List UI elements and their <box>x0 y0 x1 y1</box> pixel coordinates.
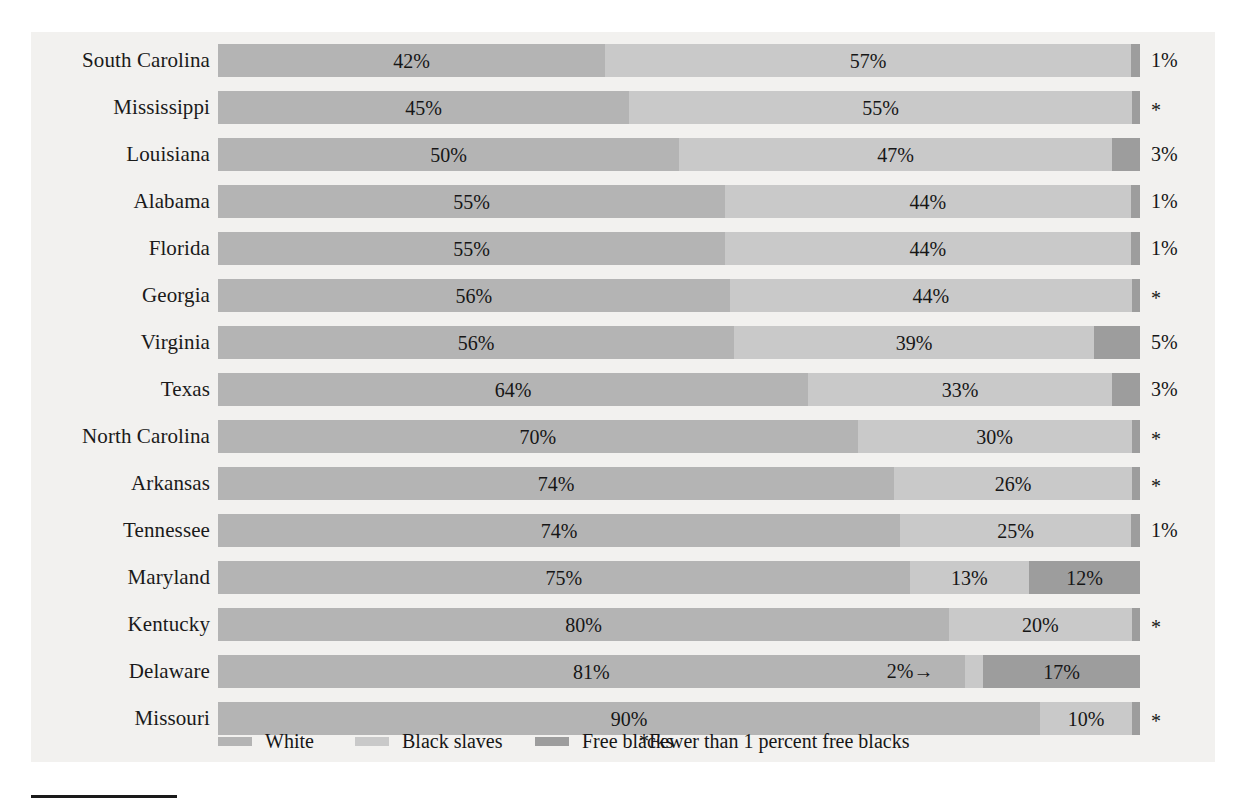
segment-black-slaves-value: 44% <box>910 192 947 212</box>
segment-black-slaves: 20% <box>949 608 1132 641</box>
legend-item-black-slaves: Black slaves <box>355 724 503 758</box>
segment-white-value: 74% <box>538 474 575 494</box>
segment-black-slaves-value: 44% <box>912 286 949 306</box>
segment-free-blacks: 12% <box>1029 561 1140 594</box>
segment-free-blacks-value: 12% <box>1066 568 1103 588</box>
segment-white-value: 70% <box>519 427 556 447</box>
free-blacks-asterisk: * <box>1151 608 1231 641</box>
segment-free-blacks: * <box>1132 279 1140 312</box>
segment-white: 45% <box>218 91 629 124</box>
segment-white-value: 55% <box>453 239 490 259</box>
bar-row: Maryland75%13%12% <box>31 561 1215 594</box>
segment-black-slaves-value: 39% <box>896 333 933 353</box>
segment-black-slaves-value: 13% <box>951 568 988 588</box>
free-blacks-outside-value: 3% <box>1151 373 1231 406</box>
segment-black-slaves-value: 55% <box>862 98 899 118</box>
legend-label: White <box>265 730 314 753</box>
free-blacks-asterisk: * <box>1151 420 1231 453</box>
segment-white-value: 75% <box>545 568 582 588</box>
segment-white: 80% <box>218 608 949 641</box>
stacked-bar: 55%44%1% <box>218 232 1140 265</box>
segment-black-slaves: 44% <box>730 279 1132 312</box>
stacked-bar: 45%55%* <box>218 91 1140 124</box>
row-label-state: Florida <box>31 232 210 265</box>
free-blacks-outside-value: 1% <box>1151 232 1231 265</box>
segment-white-value: 45% <box>405 98 442 118</box>
segment-white-value: 64% <box>495 380 532 400</box>
free-blacks-outside-value: 1% <box>1151 185 1231 218</box>
bar-row: Texas64%33%3%3% <box>31 373 1215 406</box>
bar-row: South Carolina42%57%1%1% <box>31 44 1215 77</box>
free-blacks-asterisk: * <box>1151 279 1231 312</box>
segment-free-blacks: * <box>1132 467 1140 500</box>
segment-white-value: 56% <box>456 286 493 306</box>
segment-white: 50% <box>218 138 679 171</box>
legend-label: Black slaves <box>402 730 503 753</box>
segment-free-blacks: 1% <box>1131 44 1140 77</box>
segment-white-value: 42% <box>393 51 430 71</box>
bar-row: Arkansas74%26%** <box>31 467 1215 500</box>
segment-free-blacks: * <box>1132 608 1140 641</box>
segment-white: 74% <box>218 467 894 500</box>
row-label-state: Texas <box>31 373 210 406</box>
segment-black-slaves-value: 57% <box>850 51 887 71</box>
bar-row: Tennessee74%25%1%1% <box>31 514 1215 547</box>
row-label-state: South Carolina <box>31 44 210 77</box>
segment-white: 81% <box>218 655 965 688</box>
segment-free-blacks: 5% <box>1094 326 1140 359</box>
legend-item-white: White <box>218 724 314 758</box>
segment-white: 55% <box>218 232 725 265</box>
segment-free-blacks: 1% <box>1131 185 1140 218</box>
delaware-slave-callout: 2%→ <box>887 655 934 688</box>
legend-swatch-icon <box>535 737 569 746</box>
segment-white-value: 90% <box>611 709 648 729</box>
segment-black-slaves: 26% <box>894 467 1132 500</box>
row-label-state: Maryland <box>31 561 210 594</box>
row-label-state: Missouri <box>31 702 210 735</box>
row-label-state: Virginia <box>31 326 210 359</box>
segment-white: 74% <box>218 514 900 547</box>
segment-white-value: 56% <box>458 333 495 353</box>
row-label-state: North Carolina <box>31 420 210 453</box>
bar-row: North Carolina70%30%** <box>31 420 1215 453</box>
segment-black-slaves: 2%→ <box>965 655 983 688</box>
segment-white: 64% <box>218 373 808 406</box>
segment-black-slaves-value: 10% <box>1068 709 1105 729</box>
row-label-state: Tennessee <box>31 514 210 547</box>
segment-black-slaves: 30% <box>858 420 1132 453</box>
segment-free-blacks: 1% <box>1131 232 1140 265</box>
stacked-bar: 74%26%* <box>218 467 1140 500</box>
segment-black-slaves: 13% <box>910 561 1030 594</box>
row-label-state: Kentucky <box>31 608 210 641</box>
row-label-state: Arkansas <box>31 467 210 500</box>
segment-black-slaves: 55% <box>629 91 1132 124</box>
segment-black-slaves-value: 44% <box>910 239 947 259</box>
stacked-bar: 80%20%* <box>218 608 1140 641</box>
bar-row: Mississippi45%55%** <box>31 91 1215 124</box>
segment-white-value: 74% <box>541 521 578 541</box>
stacked-bar: 56%44%* <box>218 279 1140 312</box>
row-label-state: Louisiana <box>31 138 210 171</box>
stacked-bar: 81%2%→17% <box>218 655 1140 688</box>
segment-black-slaves: 39% <box>734 326 1094 359</box>
segment-free-blacks: 17% <box>983 655 1140 688</box>
segment-white: 56% <box>218 326 734 359</box>
stacked-bar: 42%57%1% <box>218 44 1140 77</box>
bar-row: Florida55%44%1%1% <box>31 232 1215 265</box>
stacked-bar: 64%33%3% <box>218 373 1140 406</box>
segment-white: 55% <box>218 185 725 218</box>
segment-free-blacks: 1% <box>1131 514 1140 547</box>
segment-black-slaves-value: 26% <box>995 474 1032 494</box>
legend-swatch-icon <box>355 737 389 746</box>
segment-black-slaves: 33% <box>808 373 1112 406</box>
segment-free-blacks: 3% <box>1112 138 1140 171</box>
bottom-rule <box>31 795 177 798</box>
row-label-state: Alabama <box>31 185 210 218</box>
bar-row: Virginia56%39%5%5% <box>31 326 1215 359</box>
segment-white-value: 80% <box>565 615 602 635</box>
stacked-bar: 70%30%* <box>218 420 1140 453</box>
legend-swatch-icon <box>218 737 252 746</box>
segment-white-value: 50% <box>430 145 467 165</box>
segment-white-value: 55% <box>453 192 490 212</box>
segment-white: 56% <box>218 279 730 312</box>
